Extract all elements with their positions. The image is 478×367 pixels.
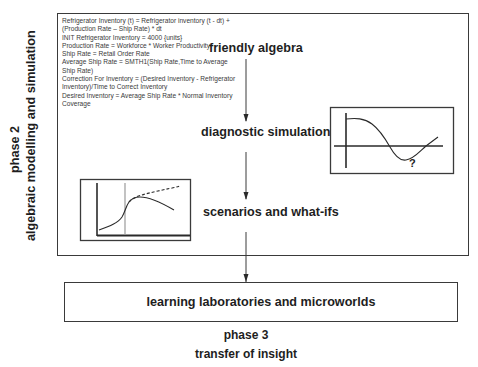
diagnostic-chart — [331, 108, 454, 174]
arrow-down-icon — [244, 59, 249, 122]
question-mark-annotation: ? — [409, 157, 416, 169]
phase3-subtitle: transfer of insight — [176, 347, 316, 361]
phase3-label: phase 3 — [196, 328, 296, 342]
scenarios-chart — [81, 180, 191, 241]
arrow-down-icon — [244, 232, 249, 282]
phase3-box-label: learning laboratories and microworlds — [64, 295, 458, 309]
arrow-down-icon — [244, 152, 249, 200]
